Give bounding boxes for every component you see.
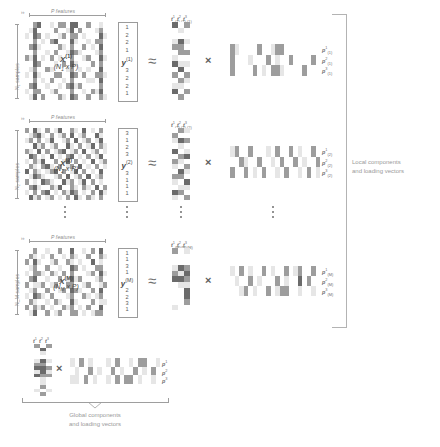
block-1-matrix-dim: (N1 x P) <box>45 63 87 72</box>
block-2-samples-axis-tick-bot <box>15 198 19 199</box>
block-2-loading-label-1: p1(2) <box>322 147 332 157</box>
block-1-y-values: 1221y(1)3221 <box>118 25 136 97</box>
ellipsis-dot <box>126 211 128 213</box>
block-1-samples-label: N₁ samples <box>14 63 20 90</box>
block-2-features-axis-tick-left <box>29 119 30 123</box>
y-vector-name: y(M) <box>121 277 133 288</box>
y-value: 1 <box>118 48 136 54</box>
ellipsis-dot <box>126 206 128 208</box>
block-2-matrix-dim: (N2 x P) <box>45 165 87 174</box>
block-3-samples-axis-tick-bot <box>15 314 19 315</box>
block-2-features-axis-tick-right <box>105 119 106 123</box>
figure-canvas: P features››N₁ samplesX(1)(N1 x P)1221y(… <box>0 0 440 447</box>
block-2-loading-label-2: p2(2) <box>322 158 332 168</box>
block-1-score-matrix <box>172 22 190 100</box>
block-3-features-label: P features <box>51 234 75 240</box>
local-components-caption: Local components and loading vectors <box>352 158 432 175</box>
block-2-loading-matrix <box>230 146 320 178</box>
ellipsis-dot <box>180 206 182 208</box>
block-1-features-label: P features <box>51 8 75 14</box>
ellipsis-dot <box>180 211 182 213</box>
ellipsis-dot <box>64 216 66 218</box>
block-1-loading-label-1: p1(1) <box>322 45 332 55</box>
ellipsis-dot <box>272 206 274 208</box>
heatmap-cell <box>103 94 107 100</box>
y-value: 1 <box>118 184 136 190</box>
block-3-matrix-dim: (NM x P) <box>45 283 87 292</box>
heatmap-cell <box>103 310 107 316</box>
y-value: 2 <box>118 76 136 82</box>
ellipsis-score-matrix <box>180 206 182 218</box>
y-value: 2 <box>118 145 136 151</box>
global-score-matrix <box>34 344 52 396</box>
global-score-label-1: t1 <box>33 336 37 344</box>
heatmap-cell <box>316 44 321 55</box>
block-2-approx-symbol: ≈ <box>148 154 156 171</box>
block-1-features-axis-tick-left <box>29 13 30 17</box>
y-value: 2 <box>118 84 136 90</box>
y-value: 3 <box>118 131 136 137</box>
block-1-times-symbol: × <box>205 54 211 66</box>
ellipsis-dot <box>64 211 66 213</box>
heatmap-cell <box>316 266 321 276</box>
heatmap-cell <box>184 94 190 100</box>
block-1-features-axis-tick-right <box>105 13 106 17</box>
y-value: 3 <box>118 152 136 158</box>
heatmap-cell <box>316 157 321 168</box>
ellipsis-loading-matrix <box>272 206 274 218</box>
block-3-features-axis-tick-right <box>105 239 106 243</box>
y-vector-name: y(2) <box>122 159 133 170</box>
ellipsis-y-vector <box>126 206 128 218</box>
block-2-samples-axis-tick-top <box>15 130 19 131</box>
y-value: 1 <box>118 178 136 184</box>
y-value: 1 <box>118 307 136 313</box>
global-loading-label-3: p3 <box>162 376 167 384</box>
y-value: 1 <box>118 191 136 197</box>
heatmap-cell <box>184 310 190 316</box>
block-3-features-axis <box>29 241 105 242</box>
global-score-label-2: t2 <box>39 336 43 344</box>
block-2-score-matrix <box>172 128 190 200</box>
y-value: 2 <box>118 33 136 39</box>
global-times-symbol: × <box>56 362 62 374</box>
global-components-caption: Global components and loading vectors <box>22 411 168 428</box>
y-vector-name: y(1) <box>122 56 133 67</box>
block-2-y-values: 3123y(2)3111 <box>118 131 136 197</box>
block-1-samples-axis-tick-bot <box>15 98 19 99</box>
y-value: 2 <box>118 288 136 294</box>
block-1-loading-label-3: p3(1) <box>322 66 332 76</box>
block-3-times-symbol: × <box>205 274 211 286</box>
block-2-samples-label: N₂ samples <box>14 163 20 190</box>
global-underbrace-left-tick <box>22 398 23 403</box>
y-value: 3 <box>118 68 136 74</box>
ellipsis-dot <box>272 216 274 218</box>
block-3-approx-symbol: ≈ <box>148 272 156 289</box>
global-loading-label-2: p2 <box>162 368 167 376</box>
heatmap-cell <box>46 392 52 396</box>
block-2-axis-marker: ›› <box>21 115 25 121</box>
local-components-bracket <box>332 14 347 328</box>
heatmap-cell <box>316 65 321 76</box>
block-3-axis-marker: ›› <box>21 235 25 241</box>
heatmap-cell <box>103 195 107 200</box>
heatmap-cell <box>184 195 190 200</box>
block-1-axis-marker: ›› <box>21 9 25 15</box>
block-2-times-symbol: × <box>205 156 211 168</box>
block-3-score-matrix <box>172 248 190 316</box>
block-3-features-axis-tick-left <box>29 239 30 243</box>
heatmap-cell <box>316 286 321 296</box>
heatmap-cell <box>316 55 321 66</box>
ellipsis-dot <box>180 216 182 218</box>
heatmap-cell <box>156 358 161 367</box>
y-value: 1 <box>118 91 136 97</box>
block-2-features-label: P features <box>51 114 75 120</box>
y-value: 1 <box>118 270 136 276</box>
heatmap-cell <box>156 375 161 384</box>
y-value: 1 <box>118 25 136 31</box>
heatmap-cell <box>316 167 321 178</box>
block-3-loading-matrix <box>230 266 320 296</box>
heatmap-cell <box>156 367 161 376</box>
ellipsis-dot <box>272 211 274 213</box>
ellipsis-dot <box>64 206 66 208</box>
block-3-samples-axis-tick-top <box>15 250 19 251</box>
